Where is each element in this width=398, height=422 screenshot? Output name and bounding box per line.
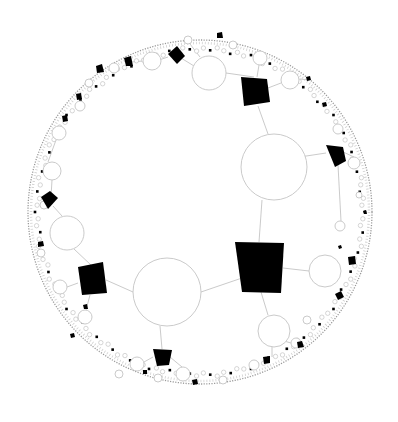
rim-circle-node: [349, 277, 353, 281]
rim-square-node: [269, 62, 272, 65]
rim-circle-node: [215, 46, 219, 50]
square-node: [153, 349, 172, 366]
circle-node: [229, 41, 237, 49]
rim-square-node: [36, 190, 39, 193]
rim-circle-node: [359, 175, 363, 179]
rim-square-node: [303, 336, 306, 339]
rim-circle-node: [353, 264, 357, 268]
rim-circle-node: [235, 50, 239, 54]
rim-square-node: [350, 151, 353, 154]
tree-edge: [268, 83, 281, 88]
rim-circle-node: [311, 326, 315, 330]
rim-circle-node: [134, 59, 138, 63]
disk-boundary: [28, 40, 372, 384]
tree-edge: [106, 280, 133, 292]
rim-circle-node: [123, 353, 127, 357]
rim-circle-node: [181, 46, 185, 50]
tree-edge: [258, 106, 268, 134]
rim-circle-node: [115, 353, 119, 357]
disk-rim-inner: [31, 43, 369, 381]
rim-circle-node: [194, 374, 198, 378]
square-node: [38, 241, 44, 247]
circle-node: [249, 360, 259, 370]
rim-circle-node: [161, 53, 165, 57]
rim-circle-node: [35, 203, 39, 207]
square-node: [76, 93, 82, 100]
rim-square-node: [169, 369, 172, 372]
circle-node: [192, 56, 226, 90]
square-node: [124, 56, 133, 66]
rim-circle-node: [71, 310, 75, 314]
circle-node: [258, 315, 290, 347]
rim-circle-node: [84, 94, 88, 98]
circle-node: [37, 249, 45, 257]
rim-circle-node: [334, 120, 338, 124]
rim-circle-node: [47, 277, 51, 281]
rim-circle-node: [46, 263, 50, 267]
rim-square-node: [112, 74, 115, 77]
rim-circle-node: [242, 367, 246, 371]
rim-circle-node: [241, 54, 245, 58]
tree-edge: [257, 65, 259, 77]
rim-square-node: [168, 50, 171, 53]
circle-node: [176, 367, 190, 381]
square-node: [62, 115, 68, 122]
circle-node: [53, 280, 67, 294]
rim-circle-node: [221, 370, 225, 374]
tree-edge: [338, 165, 341, 221]
rim-circle-node: [99, 340, 103, 344]
circle-node: [348, 157, 360, 169]
rim-square-node: [342, 132, 345, 135]
rim-circle-node: [280, 67, 284, 71]
rim-circle-node: [344, 282, 348, 286]
tree-edge: [181, 58, 194, 66]
rim-circle-node: [36, 175, 40, 179]
square-node: [306, 76, 311, 81]
rim-square-node: [148, 368, 151, 371]
circle-node: [356, 192, 362, 198]
square-node: [235, 242, 284, 293]
rim-circle-node: [235, 367, 239, 371]
square-node: [326, 145, 346, 167]
rim-square-node: [332, 308, 335, 311]
rim-circle-node: [201, 371, 205, 375]
rim-circle-node: [360, 203, 364, 207]
square-node: [70, 333, 75, 338]
tree-edge: [201, 278, 242, 292]
square-node: [263, 356, 270, 364]
tree-edge: [226, 73, 254, 77]
rim-circle-node: [104, 75, 108, 79]
rim-circle-node: [41, 257, 45, 261]
tree-edge: [74, 249, 92, 266]
rim-square-node: [302, 86, 305, 89]
rim-square-node: [229, 372, 232, 375]
rim-circle-node: [194, 49, 198, 53]
circle-node: [130, 357, 144, 371]
circle-node: [115, 370, 123, 378]
rim-circle-node: [312, 93, 316, 97]
circle-node: [75, 101, 85, 111]
rim-square-node: [48, 151, 51, 154]
rim-square-node: [356, 170, 359, 173]
circle-node: [109, 63, 119, 73]
circle-node: [43, 162, 61, 180]
rim-circle-node: [74, 317, 78, 321]
rim-square-node: [47, 271, 50, 274]
rim-circle-node: [280, 353, 284, 357]
rim-circle-node: [84, 326, 88, 330]
circle-node: [50, 216, 84, 250]
rim-circle-node: [70, 109, 74, 113]
circle-node: [333, 124, 343, 134]
rim-square-node: [349, 270, 352, 273]
rim-circle-node: [343, 138, 347, 142]
rim-circle-node: [87, 332, 91, 336]
rim-square-node: [361, 231, 364, 234]
circle-node: [303, 316, 311, 324]
rim-circle-node: [43, 156, 47, 160]
square-node: [335, 291, 344, 300]
circle-node: [143, 52, 161, 70]
hyperbolic-tree-diagram: [0, 0, 398, 422]
rim-square-node: [209, 49, 212, 52]
square-node: [192, 379, 198, 385]
rim-circle-node: [160, 369, 164, 373]
